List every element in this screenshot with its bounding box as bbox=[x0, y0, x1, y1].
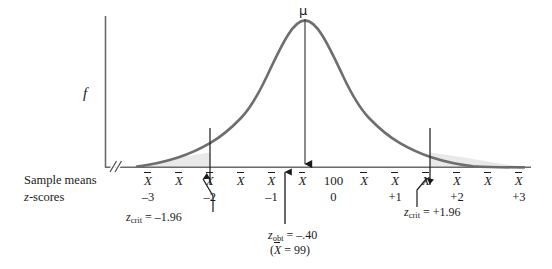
z-score-tick-label: +2 bbox=[450, 190, 463, 205]
center-value-label: 100 bbox=[324, 173, 344, 189]
x-bar-symbol: X bbox=[268, 173, 276, 189]
z-crit-lower-annotation: zcrit = –1.96 bbox=[126, 210, 182, 225]
z-obt-value: = –.40 bbox=[284, 228, 318, 242]
x-bar-symbol: X bbox=[391, 173, 399, 189]
z-score-tick-label: 0 bbox=[330, 190, 336, 205]
z-score-tick-label: –1 bbox=[265, 190, 278, 205]
z-score-tick-label: –2 bbox=[204, 190, 217, 205]
x-bar-symbol: X bbox=[360, 173, 368, 189]
z-score-tick-label: –3 bbox=[142, 190, 155, 205]
sample-mean-tick-label: X bbox=[484, 173, 492, 189]
sample-mean-tick-label: X bbox=[422, 173, 430, 189]
z-scores-caption: z-scores bbox=[24, 191, 64, 204]
sample-means-caption: Sample means bbox=[24, 174, 97, 187]
z-crit-upper-sub: crit bbox=[409, 210, 420, 220]
z-score-tick-label: +1 bbox=[389, 190, 402, 205]
x-bar-symbol: X bbox=[515, 173, 523, 189]
z-crit-upper-annotation: zcrit = +1.96 bbox=[404, 205, 461, 220]
z-score-tick-label: +3 bbox=[512, 190, 525, 205]
x-bar-symbol: X bbox=[144, 173, 152, 189]
z-crit-lower-sub: crit bbox=[131, 215, 142, 225]
sample-mean-tick-label: X bbox=[453, 173, 461, 189]
sample-mean-tick-label: X bbox=[206, 173, 214, 189]
x-bar-symbol: X bbox=[206, 173, 214, 189]
x-bar-symbol: X bbox=[299, 173, 307, 189]
sample-mean-tick-label: X bbox=[144, 173, 152, 189]
mu-label: μ bbox=[299, 4, 307, 17]
normal-curve bbox=[137, 20, 524, 167]
x-bar-symbol: X bbox=[422, 173, 430, 189]
sample-mean-tick-label: X bbox=[299, 173, 307, 189]
z-crit-lower-value: = –1.96 bbox=[142, 210, 182, 224]
sample-mean-tick-label: X bbox=[360, 173, 368, 189]
sample-mean-tick-label: X bbox=[268, 173, 276, 189]
figure-canvas: f μ Sample means z-scores X–3XX–2XX–1X10… bbox=[0, 0, 552, 269]
y-axis-label: f bbox=[83, 86, 87, 101]
sample-mean-tick-label: X bbox=[237, 173, 245, 189]
x-bar-symbol: X bbox=[175, 173, 183, 189]
sample-mean-tick-label: X bbox=[515, 173, 523, 189]
x-bar-symbol: X bbox=[453, 173, 461, 189]
x-bar-symbol: X bbox=[484, 173, 492, 189]
z-crit-upper-value: = +1.96 bbox=[420, 205, 461, 219]
z-scores-caption-suffix: -scores bbox=[29, 190, 64, 204]
z-obt-annotation: zobt = –.40 bbox=[268, 228, 317, 243]
sample-mean-symbol: X bbox=[274, 243, 281, 258]
sample-mean-value: = 99) bbox=[281, 243, 310, 257]
sample-mean-tick-label: X bbox=[391, 173, 399, 189]
x-bar-symbol: X bbox=[237, 173, 245, 189]
sample-mean-tick-label: X bbox=[175, 173, 183, 189]
z-obt-sample-mean-annotation: (X = 99) bbox=[270, 243, 310, 258]
